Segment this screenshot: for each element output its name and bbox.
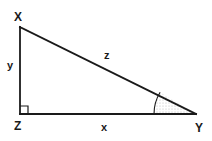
triangle-drawing bbox=[0, 0, 212, 141]
right-angle-square-icon bbox=[20, 106, 28, 114]
side-label-y: y bbox=[7, 60, 13, 71]
vertex-label-y: Y bbox=[195, 122, 203, 134]
side-label-x: x bbox=[101, 122, 107, 133]
triangle-figure: X Z Y y x z bbox=[0, 0, 212, 141]
hypotenuse-line bbox=[20, 27, 196, 114]
side-label-z: z bbox=[104, 50, 110, 61]
vertex-label-x: X bbox=[14, 11, 22, 23]
vertex-label-z: Z bbox=[14, 120, 21, 132]
